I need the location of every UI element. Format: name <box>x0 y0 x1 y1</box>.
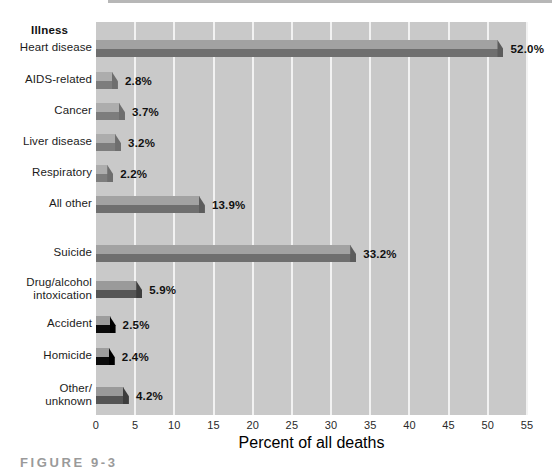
gridline-20 <box>252 22 254 415</box>
bar <box>96 196 205 213</box>
x-tick-label: 45 <box>434 419 464 431</box>
bar-front-face <box>96 49 498 57</box>
gridline-30 <box>330 22 332 415</box>
gridline-10 <box>173 22 175 415</box>
bar <box>96 165 113 182</box>
category-label-line1: Heart disease <box>0 41 92 54</box>
bar-top-face <box>96 245 351 254</box>
x-axis-title: Percent of all deaths <box>239 434 385 451</box>
bar-top-face <box>96 281 137 290</box>
bar-front-face <box>96 325 111 333</box>
category-label: Homicide <box>0 349 92 362</box>
bar-top-face <box>96 387 124 396</box>
bar-value-label: 2.8% <box>125 75 152 87</box>
bar-front-face <box>96 357 110 365</box>
bar-front-face <box>96 143 116 151</box>
category-label: Heart disease <box>0 41 92 54</box>
bar-value-label: 13.9% <box>212 199 246 211</box>
bar-front-face <box>96 254 351 262</box>
bar <box>96 245 356 262</box>
category-label-line1: Accident <box>0 317 92 330</box>
bar-end-cap <box>112 72 118 89</box>
bar-end-cap <box>115 134 121 151</box>
bar-top-face <box>96 348 110 357</box>
bar <box>96 316 116 333</box>
bar-front-face <box>96 174 108 182</box>
bar <box>96 40 503 57</box>
bar-front-face <box>96 290 137 298</box>
x-tick-label: 15 <box>199 419 229 431</box>
bar-front-face <box>96 112 120 120</box>
bar-top-face <box>96 134 116 143</box>
x-axis-title-wrapper: Percent of all deaths <box>96 434 527 452</box>
category-label-line1: Suicide <box>0 246 92 259</box>
category-label: All other <box>0 197 92 210</box>
bar <box>96 348 115 365</box>
bar-value-label: 2.2% <box>120 168 147 180</box>
bar-end-cap <box>119 103 125 120</box>
bar-end-cap <box>350 245 356 262</box>
category-label: Suicide <box>0 246 92 259</box>
category-label: Other/unknown <box>0 382 92 407</box>
x-tick-label: 5 <box>120 419 150 431</box>
bar-top-face <box>96 40 498 49</box>
bar-top-face <box>96 72 113 81</box>
bar-end-cap <box>107 165 113 182</box>
x-tick-label: 35 <box>355 419 385 431</box>
bar-value-label: 52.0% <box>510 43 544 55</box>
bar <box>96 72 118 89</box>
bar-end-cap <box>497 40 503 57</box>
bar-top-face <box>96 196 200 205</box>
bar-top-face <box>96 165 108 174</box>
bar-front-face <box>96 396 124 404</box>
category-label: Liver disease <box>0 135 92 148</box>
group-header-illness: Illness <box>31 24 68 36</box>
bar-end-cap <box>123 387 129 404</box>
top-rule <box>108 0 552 3</box>
gridline-50 <box>487 22 489 415</box>
bar <box>96 134 121 151</box>
gridline-45 <box>448 22 450 415</box>
bar-end-cap <box>199 196 205 213</box>
x-tick-label: 55 <box>512 419 542 431</box>
gridline-15 <box>213 22 215 415</box>
bar-value-label: 3.2% <box>128 137 155 149</box>
category-label-line1: Respiratory <box>0 166 92 179</box>
x-tick-label: 30 <box>316 419 346 431</box>
category-label-line1: All other <box>0 197 92 210</box>
bar-end-cap <box>136 281 142 298</box>
bar-front-face <box>96 81 113 89</box>
category-label: Drug/alcoholintoxication <box>0 276 92 301</box>
gridline-55 <box>526 22 528 415</box>
gridline-25 <box>291 22 293 415</box>
category-label: Respiratory <box>0 166 92 179</box>
x-tick-label: 25 <box>277 419 307 431</box>
category-label-line1: Homicide <box>0 349 92 362</box>
category-label-line2: intoxication <box>0 289 92 302</box>
x-tick-label: 10 <box>159 419 189 431</box>
category-label-line1: Drug/alcohol <box>0 276 92 289</box>
gridline-40 <box>408 22 410 415</box>
bar-top-face <box>96 103 120 112</box>
bar-value-label: 33.2% <box>363 248 397 260</box>
x-tick-label: 20 <box>238 419 268 431</box>
gridline-35 <box>369 22 371 415</box>
x-tick-label: 50 <box>473 419 503 431</box>
bar-value-label: 4.2% <box>136 390 163 402</box>
category-label-line1: AIDS-related <box>0 73 92 86</box>
bar-end-cap <box>110 316 116 333</box>
category-label: Accident <box>0 317 92 330</box>
bar-end-cap <box>109 348 115 365</box>
bar <box>96 387 129 404</box>
plot-area <box>96 22 527 415</box>
category-label: AIDS-related <box>0 73 92 86</box>
bar <box>96 103 125 120</box>
bar <box>96 281 142 298</box>
bar-value-label: 5.9% <box>149 284 176 296</box>
category-label: Cancer <box>0 104 92 117</box>
bar-top-face <box>96 316 111 325</box>
category-label-line2: unknown <box>0 395 92 408</box>
x-tick-label: 40 <box>394 419 424 431</box>
bar-value-label: 3.7% <box>132 106 159 118</box>
